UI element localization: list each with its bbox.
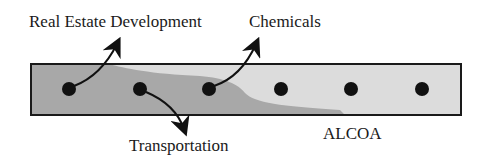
label-chemicals: Chemicals [249, 12, 321, 32]
label-transportation: Transportation [129, 136, 229, 156]
dot-6 [415, 82, 429, 96]
label-company: ALCOA [323, 124, 382, 144]
dot-real-estate [62, 82, 76, 96]
dot-4 [274, 82, 288, 96]
dot-5 [344, 82, 358, 96]
dot-transportation [133, 82, 147, 96]
dot-chemicals [202, 82, 216, 96]
label-real-estate: Real Estate Development [29, 12, 202, 32]
